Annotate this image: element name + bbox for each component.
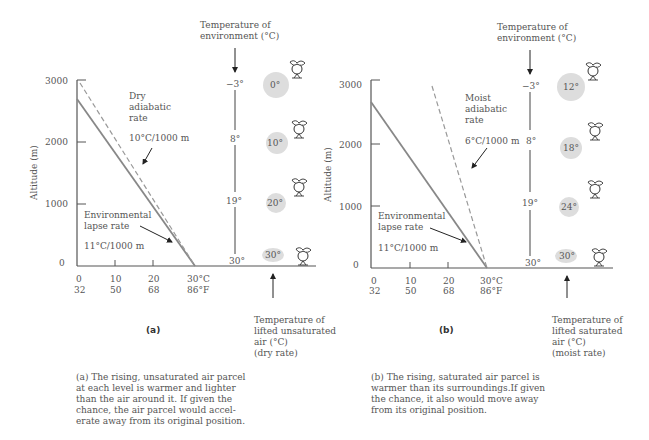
moist-adiabatic-rate: 6°C/1000 m — [465, 136, 519, 147]
panel-b-ytick: 1000 — [339, 202, 362, 213]
env-lapse-rate: 11°C/1000 m — [84, 241, 144, 252]
dry-adiabatic-label: adiabatic — [129, 102, 171, 113]
env-lapse-label: Environmental — [378, 211, 445, 222]
panel-b-xtick-f: 50 — [405, 286, 416, 297]
panel-b-env-title: environment (°C) — [497, 33, 576, 44]
dry-adiabatic-rate: 10°C/1000 m — [129, 133, 189, 144]
panel-b-env-title: Temperature of — [497, 22, 568, 33]
panel-b-parcel-temp: 12° — [563, 82, 579, 93]
panel-b-env-temp: 8° — [526, 136, 536, 147]
panel-b-ytick: 0 — [353, 260, 359, 271]
panel-a-parcel-temp: 20° — [267, 198, 283, 209]
dry-adiabatic-label: Dry — [129, 91, 146, 102]
panel-a-xtick-f: 68 — [148, 285, 159, 296]
lifted-label: Temperature of — [552, 315, 623, 326]
lifted-label: air (°C) — [552, 337, 586, 348]
panel-b-ylabel: Altitude (m) — [323, 147, 334, 202]
panel-b-env-temp: 19° — [522, 198, 538, 209]
panel-a-parcel-temp: 10° — [267, 138, 283, 149]
panel-b-parcel-temp: 18° — [563, 143, 579, 154]
panel-b-xtick-f: 32 — [369, 286, 380, 297]
panel-b-env-temp: −3° — [522, 81, 540, 92]
panel-a-xtick-c: 30°C — [187, 274, 210, 285]
env-lapse-label: lapse rate — [84, 221, 129, 232]
env-lapse-label: Environmental — [84, 210, 151, 221]
dry-adiabatic-label: rate — [129, 113, 148, 124]
panel-a-ytick: 0 — [59, 258, 65, 269]
lifted-label: lifted unsaturated — [254, 326, 336, 337]
env-lapse-label: lapse rate — [378, 222, 423, 233]
moist-adiabatic-label: Moist — [465, 93, 491, 104]
panel-a-env-temp: 8° — [230, 134, 240, 145]
panel-a-parcel-temp: 30° — [265, 250, 281, 261]
panel-b-caption: (b) The rising, saturated air parcel is … — [371, 372, 546, 416]
panel-a-ytick: 3000 — [45, 76, 68, 87]
panel-a-xtick-c: 0 — [76, 274, 82, 285]
panel-a-env-temp: 19° — [226, 196, 242, 207]
panel-a-xtick-f: 32 — [74, 285, 85, 296]
lifted-label: (dry rate) — [254, 348, 298, 359]
env-lapse-rate: 11°C/1000 m — [378, 243, 438, 254]
panel-b-label: (b) — [439, 325, 454, 335]
panel-b-ytick: 2000 — [339, 140, 362, 151]
lifted-label: lifted saturated — [552, 326, 622, 337]
panel-a-xtick-c: 20 — [148, 274, 159, 285]
panel-b-ytick: 3000 — [339, 80, 362, 91]
panel-a-env-title: Temperature of — [200, 20, 271, 31]
lifted-label: Temperature of — [254, 315, 325, 326]
panel-a-env-temp: 30° — [229, 256, 245, 267]
panel-a-caption: (a) The rising, unsaturated air parcel a… — [76, 372, 251, 427]
panel-a-xtick-f: 50 — [110, 285, 121, 296]
panel-b-parcel-temp: 30° — [559, 251, 575, 262]
panel-a-env-title: environment (°C) — [200, 31, 279, 42]
panel-b-xtick-f: 68 — [443, 286, 454, 297]
panel-b-env-temp: 30° — [525, 258, 541, 269]
panel-a-parcel-temp: 0° — [270, 80, 280, 91]
panel-a-label: (a) — [146, 325, 160, 335]
lifted-label: air (°C) — [254, 337, 288, 348]
panel-a-ytick: 1000 — [45, 199, 68, 210]
panel-b-xtick-f: 86°F — [480, 286, 502, 297]
panel-a-xtick-c: 10 — [110, 274, 121, 285]
panel-a-ylabel: Altitude (m) — [29, 145, 40, 200]
panel-a-ytick: 2000 — [45, 137, 68, 148]
panel-a-xtick-f: 86°F — [187, 285, 209, 296]
moist-adiabatic-label: rate — [465, 115, 484, 126]
lifted-label: (moist rate) — [552, 348, 606, 359]
moist-adiabatic-label: adiabatic — [465, 104, 507, 115]
panel-b-parcel-temp: 24° — [561, 202, 577, 213]
panel-a-env-temp: −3° — [226, 79, 244, 90]
